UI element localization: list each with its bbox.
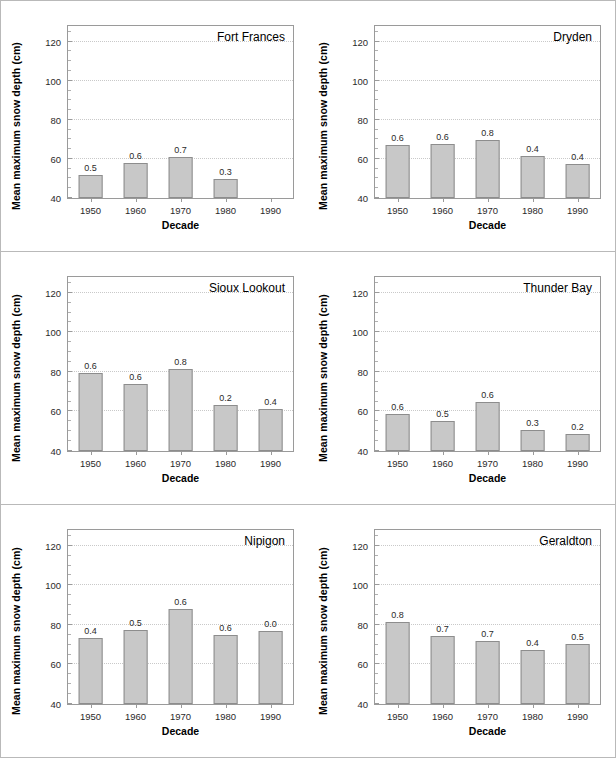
y-tick-label: 60 bbox=[50, 406, 68, 417]
x-tick-mark bbox=[91, 451, 92, 455]
bar-value-label: 0.2 bbox=[571, 422, 584, 432]
bar-group-geraldton: 0.819500.719600.719700.419800.51990 bbox=[375, 530, 600, 704]
bar-slot: 0.41980 bbox=[510, 530, 555, 704]
y-axis-title: Mean maximum snow depth (cm) bbox=[5, 1, 27, 251]
bar-value-label: 0.7 bbox=[436, 624, 449, 634]
y-axis-title: Mean maximum snow depth (cm) bbox=[312, 252, 334, 504]
bar-slot: 0.61960 bbox=[420, 26, 465, 198]
y-tick-label: 60 bbox=[50, 153, 68, 164]
bar-slot: 0.21990 bbox=[555, 277, 600, 451]
y-tick-label: 40 bbox=[50, 699, 68, 710]
x-tick-label: 1980 bbox=[215, 458, 236, 469]
y-tick-label: 120 bbox=[45, 287, 68, 298]
y-tick-label: 60 bbox=[357, 153, 375, 164]
bar-group-dryden: 0.619500.619600.819700.419800.41990 bbox=[375, 26, 600, 198]
bar-slot: 0.31980 bbox=[203, 26, 248, 198]
bar-slot: 0.51950 bbox=[68, 26, 113, 198]
x-tick-label: 1970 bbox=[477, 711, 498, 722]
y-axis-title-text: Mean maximum snow depth (cm) bbox=[10, 42, 22, 210]
x-tick-mark bbox=[398, 198, 399, 202]
y-tick-label: 60 bbox=[357, 406, 375, 417]
y-tick-label: 80 bbox=[50, 366, 68, 377]
bar bbox=[123, 384, 148, 451]
x-tick-label: 1950 bbox=[80, 711, 101, 722]
y-tick-label: 40 bbox=[357, 446, 375, 457]
x-tick-label: 1980 bbox=[522, 711, 543, 722]
y-tick-label: 120 bbox=[352, 540, 375, 551]
bar-value-label: 0.5 bbox=[129, 618, 142, 628]
y-tick-label: 60 bbox=[357, 659, 375, 670]
x-tick-label: 1950 bbox=[80, 458, 101, 469]
x-tick-mark bbox=[443, 451, 444, 455]
bar-value-label: 0.3 bbox=[526, 418, 539, 428]
bar-value-label: 0.2 bbox=[219, 393, 232, 403]
x-tick-label: 1970 bbox=[170, 711, 191, 722]
x-tick-label: 1950 bbox=[387, 711, 408, 722]
y-tick-label: 40 bbox=[50, 446, 68, 457]
x-tick-label: 1990 bbox=[567, 458, 588, 469]
y-tick-label: 80 bbox=[50, 114, 68, 125]
bar-value-label: 0.4 bbox=[526, 638, 539, 648]
bar-value-label: 0.0 bbox=[264, 619, 277, 629]
bar-slot: 0.51960 bbox=[420, 277, 465, 451]
panel-dryden: Mean maximum snow depth (cm)Dryden406080… bbox=[308, 1, 615, 251]
x-tick-mark bbox=[533, 451, 534, 455]
bar bbox=[168, 609, 193, 704]
bar-slot: 0.01990 bbox=[248, 530, 293, 704]
bar-value-label: 0.8 bbox=[174, 357, 187, 367]
panel-row-2: Mean maximum snow depth (cm)Sioux Lookou… bbox=[0, 252, 616, 505]
bar bbox=[430, 636, 455, 704]
bar-slot: 0.71970 bbox=[158, 26, 203, 198]
x-tick-mark bbox=[136, 451, 137, 455]
x-tick-mark bbox=[578, 198, 579, 202]
x-tick-label: 1990 bbox=[567, 711, 588, 722]
bar bbox=[385, 414, 410, 451]
panel-row-1: Mean maximum snow depth (cm)Fort Frances… bbox=[0, 0, 616, 252]
bar-value-label: 0.7 bbox=[174, 145, 187, 155]
y-tick-label: 80 bbox=[357, 619, 375, 630]
bar-value-label: 0.4 bbox=[571, 152, 584, 162]
y-axis-title-text: Mean maximum snow depth (cm) bbox=[10, 547, 22, 715]
y-axis-title: Mean maximum snow depth (cm) bbox=[312, 505, 334, 757]
x-tick-mark bbox=[488, 451, 489, 455]
bar-slot: 0.61950 bbox=[375, 277, 420, 451]
bar-value-label: 0.5 bbox=[436, 409, 449, 419]
bar-value-label: 0.6 bbox=[391, 133, 404, 143]
panel-thunder-bay: Mean maximum snow depth (cm)Thunder Bay4… bbox=[308, 252, 615, 504]
x-tick-mark bbox=[271, 451, 272, 455]
y-tick-label: 100 bbox=[352, 327, 375, 338]
bar-slot: 0.41950 bbox=[68, 530, 113, 704]
bar-slot: 0.51990 bbox=[555, 530, 600, 704]
bar bbox=[78, 638, 103, 704]
x-tick-mark bbox=[91, 704, 92, 708]
x-axis-title: Decade bbox=[374, 219, 601, 231]
x-tick-label: 1960 bbox=[125, 711, 146, 722]
plot-area-dryden: Dryden4060801001200.619500.619600.819700… bbox=[374, 25, 601, 199]
y-tick-label: 80 bbox=[50, 619, 68, 630]
y-tick-label: 100 bbox=[45, 580, 68, 591]
x-tick-label: 1990 bbox=[567, 205, 588, 216]
bar bbox=[78, 175, 103, 198]
x-tick-mark bbox=[578, 451, 579, 455]
x-tick-mark bbox=[181, 704, 182, 708]
bar bbox=[78, 373, 103, 451]
y-axis-title: Mean maximum snow depth (cm) bbox=[312, 1, 334, 251]
bar bbox=[475, 140, 500, 198]
x-tick-label: 1960 bbox=[125, 458, 146, 469]
bar-slot: 0.81950 bbox=[375, 530, 420, 704]
x-tick-mark bbox=[398, 704, 399, 708]
bar-value-label: 0.6 bbox=[84, 361, 97, 371]
bar-slot: 1990 bbox=[248, 26, 293, 198]
bar-slot: 0.61970 bbox=[465, 277, 510, 451]
x-tick-label: 1980 bbox=[522, 205, 543, 216]
x-tick-mark bbox=[91, 198, 92, 202]
bar-slot: 0.31980 bbox=[510, 277, 555, 451]
bar-value-label: 0.6 bbox=[129, 372, 142, 382]
bar-slot: 0.61970 bbox=[158, 530, 203, 704]
bar-value-label: 0.5 bbox=[571, 632, 584, 642]
figure-sheet: Mean maximum snow depth (cm)Fort Frances… bbox=[0, 0, 616, 758]
bar-slot: 0.61950 bbox=[375, 26, 420, 198]
y-axis-title-text: Mean maximum snow depth (cm) bbox=[317, 294, 329, 462]
bar-group-nipigon: 0.419500.519600.619700.619800.01990 bbox=[68, 530, 293, 704]
bar-slot: 0.41990 bbox=[555, 26, 600, 198]
